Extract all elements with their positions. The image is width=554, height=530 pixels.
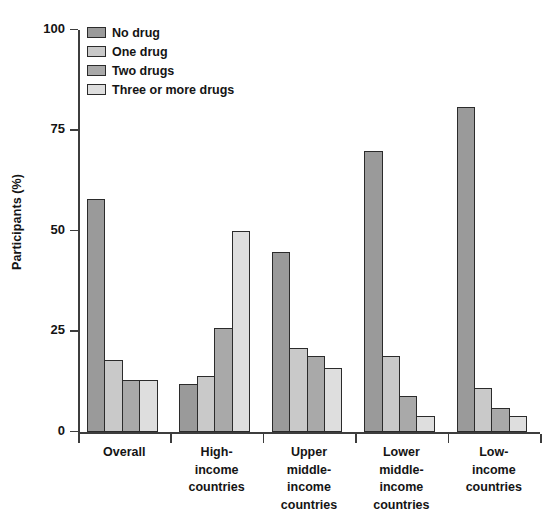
x-tick bbox=[448, 434, 450, 443]
y-tick-label: 25 bbox=[51, 321, 65, 339]
x-axis-label-line: middle- bbox=[355, 462, 447, 480]
legend-swatch bbox=[87, 46, 106, 57]
x-axis-label-line: countries bbox=[448, 479, 540, 497]
x-axis-label-line: Overall bbox=[78, 444, 170, 462]
bar bbox=[179, 384, 197, 432]
y-tick: 50 bbox=[70, 230, 78, 232]
bar bbox=[399, 396, 417, 432]
legend-swatch bbox=[87, 84, 106, 95]
bar bbox=[122, 380, 140, 432]
y-tick-label: 50 bbox=[51, 221, 65, 239]
bar bbox=[104, 360, 122, 432]
legend-item: Three or more drugs bbox=[87, 81, 234, 99]
x-axis-label-line: income bbox=[263, 479, 355, 497]
x-axis-label: Uppermiddle-incomecountries bbox=[263, 444, 355, 514]
bar bbox=[509, 416, 527, 432]
y-tick-label: 100 bbox=[43, 20, 65, 38]
bar bbox=[307, 356, 325, 432]
x-axis-label: Lowermiddle-incomecountries bbox=[355, 444, 447, 514]
legend-label: No drug bbox=[112, 26, 160, 40]
y-axis-title: Participants (%) bbox=[10, 142, 24, 302]
bar-chart: Participants (%) 0255075100 OverallHigh-… bbox=[0, 0, 554, 530]
bar bbox=[382, 356, 400, 432]
bar bbox=[364, 151, 382, 432]
x-axis-label-line: income bbox=[355, 479, 447, 497]
bar-group bbox=[364, 30, 435, 432]
bar bbox=[214, 328, 232, 433]
bar bbox=[474, 388, 492, 432]
x-axis-label-line: High- bbox=[170, 444, 262, 462]
x-axis-label-line: countries bbox=[263, 497, 355, 515]
bar bbox=[232, 231, 250, 432]
y-tick-label: 0 bbox=[58, 422, 65, 440]
legend: No drugOne drugTwo drugsThree or more dr… bbox=[87, 24, 234, 100]
bar bbox=[416, 416, 434, 432]
bar bbox=[272, 252, 290, 433]
bar bbox=[324, 368, 342, 432]
x-tick bbox=[540, 434, 542, 443]
x-axis-label-line: middle- bbox=[263, 462, 355, 480]
bar-group bbox=[272, 30, 343, 432]
legend-label: Two drugs bbox=[112, 64, 174, 78]
x-axis-label-line: countries bbox=[170, 479, 262, 497]
x-axis-label-line: income bbox=[170, 462, 262, 480]
y-tick: 100 bbox=[70, 29, 78, 31]
y-tick: 25 bbox=[70, 330, 78, 332]
y-axis-line bbox=[78, 30, 80, 434]
y-tick: 75 bbox=[70, 129, 78, 131]
x-axis-label-line: income bbox=[448, 462, 540, 480]
x-axis-label: Low-incomecountries bbox=[448, 444, 540, 497]
x-tick bbox=[78, 434, 80, 443]
bar bbox=[457, 107, 475, 433]
bar-group bbox=[457, 30, 528, 432]
x-tick bbox=[355, 434, 357, 443]
y-tick: 0 bbox=[70, 431, 78, 433]
legend-label: One drug bbox=[112, 45, 168, 59]
bar bbox=[491, 408, 509, 432]
bar bbox=[289, 348, 307, 432]
x-axis-label: High-incomecountries bbox=[170, 444, 262, 497]
x-axis-label-line: countries bbox=[355, 497, 447, 515]
x-axis-label-line: Low- bbox=[448, 444, 540, 462]
legend-swatch bbox=[87, 27, 106, 38]
bar bbox=[87, 199, 105, 432]
x-axis-label: Overall bbox=[78, 444, 170, 462]
legend-item: One drug bbox=[87, 43, 234, 61]
x-tick bbox=[170, 434, 172, 443]
x-tick bbox=[263, 434, 265, 443]
bar bbox=[139, 380, 157, 432]
bar bbox=[197, 376, 215, 432]
x-axis-line bbox=[78, 432, 540, 434]
y-tick-label: 75 bbox=[51, 120, 65, 138]
legend-item: No drug bbox=[87, 24, 234, 42]
legend-swatch bbox=[87, 65, 106, 76]
x-axis-label-line: Lower bbox=[355, 444, 447, 462]
legend-label: Three or more drugs bbox=[112, 83, 234, 97]
legend-item: Two drugs bbox=[87, 62, 234, 80]
x-axis-label-line: Upper bbox=[263, 444, 355, 462]
